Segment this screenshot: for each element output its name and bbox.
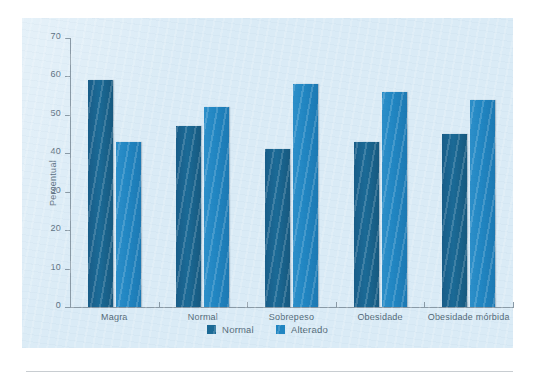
y-tick-label: 10 <box>51 262 61 272</box>
x-axis-category-label: Normal <box>159 312 248 322</box>
chart-panel: Percentual 010203040506070 MagraNormalSo… <box>22 18 513 348</box>
y-tick-label: 50 <box>51 108 61 118</box>
bar-alterado-normal <box>204 107 229 307</box>
y-tick-label: 40 <box>51 146 61 156</box>
y-tick-label: 0 <box>56 300 61 310</box>
x-axis-line <box>70 307 513 308</box>
legend-item-normal: Normal <box>207 324 254 335</box>
legend-label: Alterado <box>291 324 328 335</box>
y-tick: 0 <box>65 307 70 308</box>
x-tick <box>513 302 514 308</box>
x-axis-category-label: Magra <box>70 312 159 322</box>
bar-normal-magra <box>88 80 113 307</box>
bar-alterado-obesidade <box>382 92 407 307</box>
bar-group: Magra <box>70 38 159 307</box>
legend-swatch-icon <box>276 325 285 334</box>
bar-alterado-obesidade-mórbida <box>470 100 495 308</box>
bar-normal-normal <box>176 126 201 307</box>
legend-label: Normal <box>222 324 254 335</box>
bar-group: Obesidade mórbida <box>424 38 513 307</box>
y-tick-label: 70 <box>51 31 61 41</box>
x-axis-category-label: Obesidade mórbida <box>424 312 513 322</box>
figure: Percentual 010203040506070 MagraNormalSo… <box>0 0 535 377</box>
y-tick-label: 60 <box>51 69 61 79</box>
legend-item-alterado: Alterado <box>276 324 328 335</box>
bar-normal-obesidade-mórbida <box>442 134 467 307</box>
y-axis-label: Percentual <box>48 160 58 206</box>
chart-legend: NormalAlterado <box>22 324 513 335</box>
bar-group: Obesidade <box>336 38 425 307</box>
bar-normal-obesidade <box>354 142 379 307</box>
bar-group: Sobrepeso <box>247 38 336 307</box>
bar-normal-sobrepeso <box>265 149 290 307</box>
x-axis-category-label: Obesidade <box>336 312 425 322</box>
bar-group: Normal <box>159 38 248 307</box>
bar-alterado-magra <box>116 142 141 307</box>
bar-alterado-sobrepeso <box>293 84 318 307</box>
x-axis-category-label: Sobrepeso <box>247 312 336 322</box>
plot-area: 010203040506070 MagraNormalSobrepesoObes… <box>70 38 513 308</box>
y-tick-label: 30 <box>51 185 61 195</box>
legend-swatch-icon <box>207 325 216 334</box>
y-tick-label: 20 <box>51 223 61 233</box>
bottom-divider-rule <box>26 371 513 372</box>
